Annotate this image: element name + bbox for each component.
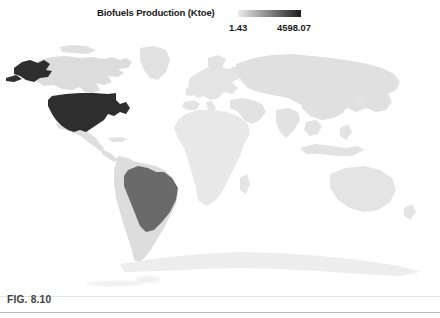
map-region-caribbean [108,137,128,142]
map-region-southeast-asia [304,120,322,136]
caption-divider [0,312,440,313]
map-region-greenland [140,46,170,80]
colorbar [238,10,301,17]
figure-number-label: FIG. 8.10 [7,294,51,305]
map-region-europe [188,66,244,100]
figure-container: Biofuels Production (Ktoe) 1.43 4598.07 [0,0,440,318]
colorbar-gradient [238,10,301,17]
us-alaska-tail [6,75,22,82]
map-region-australia [330,166,396,212]
map-region-india [276,108,300,138]
map-region-new-zealand [404,204,416,220]
figure-caption-bar: FIG. 8.10 [0,284,440,318]
map-legend: Biofuels Production (Ktoe) 1.43 4598.07 [0,4,440,40]
map-region-indonesia [300,144,364,156]
map-region-philippines [340,124,352,140]
map-region-rest-of-world [30,45,420,276]
legend-title: Biofuels Production (Ktoe) [97,7,215,18]
map-region-central-america [100,148,118,162]
colorbar-max-label: 4598.07 [277,22,311,33]
map-region-africa [174,110,250,206]
map-region-madagascar [240,174,250,194]
map-region-iberia [182,100,200,110]
map-region-arctic-islands [60,45,96,54]
world-choropleth-map [0,38,440,280]
map-region-antarctica [120,252,420,276]
colorbar-min-label: 1.43 [229,22,247,33]
scan-artifact [136,276,160,283]
world-map-area [0,38,440,280]
